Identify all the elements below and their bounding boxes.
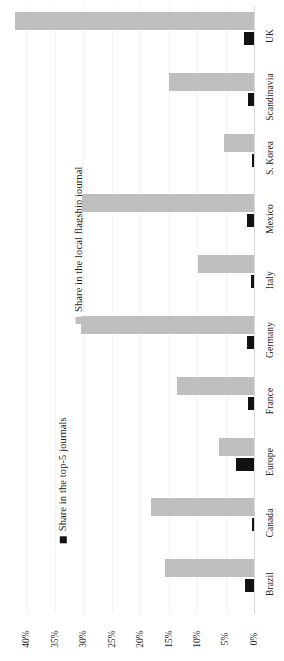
tick-label-text: 35% [49,630,59,647]
bar-flagship-uk [15,12,254,30]
chart-figure: Share in the top-5 journals Share in the… [0,0,284,661]
bar-groups [26,6,254,614]
bar-group [26,371,254,432]
bar-group [26,310,254,371]
bar-group [26,188,254,249]
bar-flagship-italy [198,255,254,273]
tick-label-text: 30% [78,630,88,647]
bar-group [26,492,254,553]
tick-label-text: 40% [21,630,31,647]
tick-label-text: 25% [106,630,116,647]
category-label-text: France [265,388,275,414]
category-label-europe: Europe [256,432,284,493]
category-label-text: Brazil [265,572,275,596]
bar-top5-germany [247,336,254,349]
bar-top5-europe [236,458,254,471]
bar-top5-scandinavia [248,93,254,106]
legend-entry-flagship-journal[interactable]: Share in the local flagship journal [0,95,24,395]
category-label-text: Mexico [265,204,275,234]
category-label-text: S. Korea [265,141,275,175]
bar-flagship-france [177,377,254,395]
category-label-brazil: Brazil [256,553,284,614]
bar-flagship-germany [81,316,254,334]
bar-flagship-mexico [82,194,254,212]
category-label-text: Europe [265,448,275,476]
bar-group [26,67,254,128]
axis-baseline [254,6,255,614]
tick-label-text: 0% [249,632,259,645]
category-label-scandinavia: Scandinavia [256,67,284,128]
category-label-text: Germany [265,322,275,358]
tick-label-text: 5% [220,632,230,645]
bar-top5-mexico [247,214,254,227]
category-label-mexico: Mexico [256,188,284,249]
tick-label-text: 15% [163,630,173,647]
bar-group [26,553,254,614]
chart-legend: Share in the top-5 journals Share in the… [0,0,24,661]
category-label-canada: Canada [256,492,284,553]
bar-flagship-scandinavia [169,73,255,91]
category-axis-labels: UKScandinaviaS. KoreaMexicoItalyGermanyF… [256,6,284,614]
bar-top5-s-korea [252,154,254,167]
bar-top5-italy [251,275,254,288]
plot-area [26,6,254,614]
bar-flagship-europe [219,438,254,456]
category-label-text: Canada [265,508,275,537]
category-label-s-korea: S. Korea [256,128,284,189]
category-label-france: France [256,371,284,432]
bar-group [26,249,254,310]
tick-label-text: 10% [192,630,202,647]
category-label-italy: Italy [256,249,284,310]
tick-label-text: 20% [135,630,145,647]
bar-top5-uk [244,32,254,45]
bar-top5-canada [252,518,254,531]
bar-top5-france [248,397,254,410]
bar-top5-brazil [245,579,254,592]
bar-flagship-s-korea [224,134,254,152]
bar-group [26,6,254,67]
category-label-uk: UK [256,6,284,67]
value-axis-tick-labels: 40%35%30%25%20%15%10%5%0% [26,616,254,661]
bar-flagship-brazil [165,559,254,577]
bar-group [26,432,254,493]
bar-flagship-canada [151,498,254,516]
tick-label-0pct: 0% [237,616,271,661]
category-label-text: UK [265,29,275,43]
category-label-text: Scandinavia [265,73,275,121]
category-label-germany: Germany [256,310,284,371]
category-label-text: Italy [265,271,275,289]
bar-group [26,128,254,189]
